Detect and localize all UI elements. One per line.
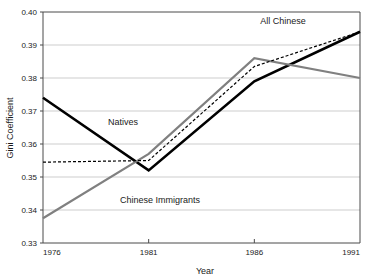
series-annotation-all-chinese: All Chinese xyxy=(260,16,306,26)
data-series-lines xyxy=(43,32,360,218)
gini-coefficient-line-chart: 0.330.340.350.360.370.380.390.40 1976198… xyxy=(0,0,377,279)
x-tick-label: 1986 xyxy=(245,248,263,257)
series-line-all-chinese xyxy=(43,32,360,162)
x-tick-label: 1991 xyxy=(342,248,360,257)
series-annotation-natives: Natives xyxy=(108,117,139,127)
y-tick-label: 0.34 xyxy=(21,206,37,215)
y-axis-tick-labels: 0.330.340.350.360.370.380.390.40 xyxy=(21,8,37,248)
y-tick-label: 0.40 xyxy=(21,8,37,17)
series-annotation-chinese-immigrants: Chinese Immigrants xyxy=(120,195,201,205)
x-tick-label: 1981 xyxy=(140,248,158,257)
y-tick-label: 0.33 xyxy=(21,239,37,248)
y-tick-label: 0.36 xyxy=(21,140,37,149)
y-tick-label: 0.39 xyxy=(21,41,37,50)
x-axis-tick-marks xyxy=(149,239,255,243)
chart-plot-area: 0.330.340.350.360.370.380.390.40 1976198… xyxy=(0,0,377,279)
x-axis-title: Year xyxy=(196,266,214,276)
x-tick-label: 1976 xyxy=(43,248,61,257)
series-line-chinese-immigrants xyxy=(43,58,360,218)
y-tick-label: 0.35 xyxy=(21,173,37,182)
x-axis-tick-labels: 1976198119861991 xyxy=(43,248,361,257)
y-tick-label: 0.37 xyxy=(21,107,37,116)
y-axis-title: Gini Coefficient xyxy=(5,97,15,158)
series-line-natives xyxy=(43,32,360,171)
y-tick-label: 0.38 xyxy=(21,74,37,83)
